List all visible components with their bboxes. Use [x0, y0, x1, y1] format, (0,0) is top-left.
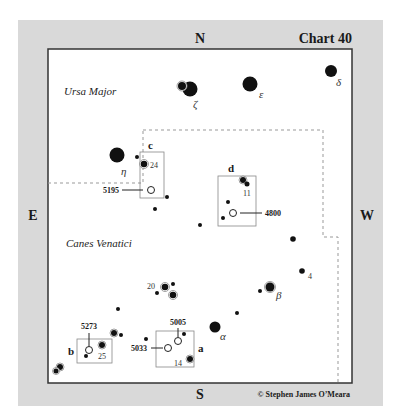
star-small: [235, 311, 239, 315]
star-small: [155, 291, 159, 295]
galaxy-ngc-5195: [148, 187, 155, 194]
star-small: [226, 200, 230, 204]
star-double-b: [54, 369, 59, 374]
galaxy-ngc-4800: [230, 210, 237, 217]
star-small: [116, 307, 120, 311]
finder-box-c-label: c: [148, 139, 153, 151]
star-small: [198, 223, 202, 227]
star-small: [135, 155, 139, 159]
label-ngc-5005: 5005: [170, 318, 186, 327]
star-small: [119, 333, 123, 337]
star-beta: [266, 283, 275, 292]
label-epsilon: ε: [259, 88, 264, 100]
star-20: [162, 284, 169, 291]
star-chart: N S E W Chart 40 © Stephen James O’Meara…: [0, 0, 401, 419]
star-small: [165, 195, 169, 199]
label-eta: η: [121, 165, 126, 177]
label-ngc-5033: 5033: [131, 344, 147, 353]
star-11b: [245, 182, 250, 187]
galaxy-ngc-5273: [86, 347, 93, 354]
star-small: [84, 354, 88, 358]
label-star-24: 24: [150, 161, 158, 170]
star-small: [290, 236, 296, 242]
star-small: [153, 207, 157, 211]
galaxy-ngc-5033: [165, 345, 172, 352]
galaxy-ngc-5005: [175, 338, 182, 345]
star-eta: [110, 148, 125, 163]
label-delta: δ: [336, 76, 342, 88]
label-alpha: α: [220, 330, 226, 342]
label-ngc-5273: 5273: [81, 322, 97, 331]
star-medium: [170, 292, 177, 299]
label-star-20: 20: [147, 282, 155, 291]
star-epsilon: [243, 77, 258, 92]
finder-box-d-label: d: [228, 162, 234, 174]
finder-box-a-label: a: [198, 342, 204, 354]
star-alpha: [210, 322, 221, 333]
chart-credit: © Stephen James O’Meara: [258, 390, 350, 399]
star-11a: [240, 177, 246, 183]
star-small: [182, 332, 186, 336]
direction-east: E: [28, 208, 37, 223]
direction-west: W: [360, 208, 374, 223]
direction-south: S: [196, 387, 204, 402]
star-small: [144, 337, 148, 341]
star-25: [99, 342, 105, 348]
label-ngc-4800: 4800: [265, 209, 281, 218]
label-star-4: 4: [308, 272, 312, 281]
label-star-25: 25: [98, 352, 106, 361]
label-beta: β: [275, 289, 282, 301]
star-small: [171, 282, 175, 286]
star-small: [221, 216, 225, 220]
star-medium: [111, 330, 117, 336]
chart-plot-area: [48, 49, 352, 383]
label-star-11: 11: [243, 189, 251, 198]
chart-title: Chart 40: [299, 31, 352, 46]
star-small: [258, 289, 262, 293]
constellation-canes-venatici: Canes Venatici: [66, 237, 132, 249]
star-4: [299, 268, 305, 274]
star-24: [141, 161, 148, 168]
direction-north: N: [195, 31, 205, 46]
label-ngc-5195: 5195: [103, 186, 119, 195]
star-14: [187, 356, 193, 362]
label-star-14: 14: [174, 359, 182, 368]
constellation-ursa-major: Ursa Major: [64, 85, 117, 97]
finder-box-b-label: b: [68, 345, 74, 357]
